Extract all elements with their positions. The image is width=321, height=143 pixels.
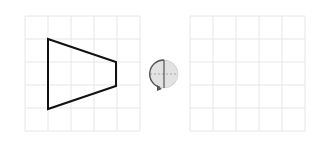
trapezoid-shape <box>48 39 116 109</box>
rotate-icon <box>150 60 178 91</box>
right-grid <box>190 16 305 131</box>
left-grid <box>25 16 140 131</box>
diagram-canvas <box>0 0 321 143</box>
